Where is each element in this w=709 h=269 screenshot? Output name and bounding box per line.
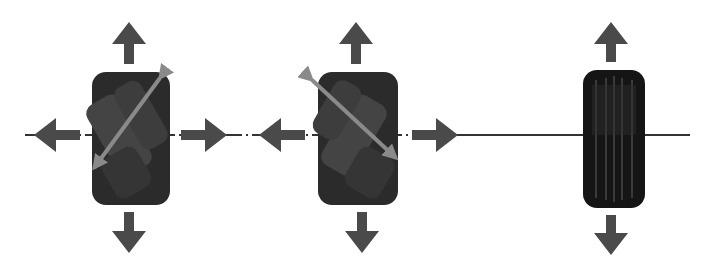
- wheel-diagram: [0, 0, 709, 269]
- mecanum-wheel-2: [309, 72, 398, 205]
- arrow-right-icon: [412, 118, 458, 152]
- arrow-left-icon: [259, 118, 305, 152]
- arrow-down-icon: [112, 212, 146, 253]
- mecanum-wheel-1: [83, 72, 172, 205]
- arrow-right-icon: [181, 118, 227, 152]
- arrow-up-icon: [594, 22, 628, 62]
- arrow-up-icon: [339, 22, 373, 64]
- arrow-down-icon: [594, 215, 628, 255]
- arrow-down-icon: [345, 212, 379, 253]
- arrow-up-icon: [112, 22, 146, 64]
- arrow-left-icon: [34, 118, 80, 152]
- standard-tire: [583, 70, 645, 208]
